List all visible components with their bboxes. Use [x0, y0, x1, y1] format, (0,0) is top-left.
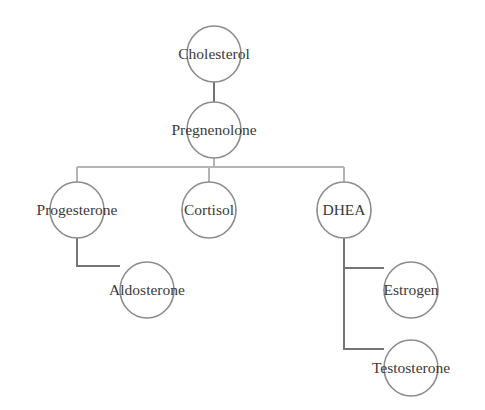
node-label-pregnenolone: Pregnenolone: [171, 121, 256, 138]
node-label-dhea: DHEA: [322, 201, 366, 218]
node-label-estrogen: Estrogen: [383, 281, 438, 298]
node-cortisol[interactable]: Cortisol: [182, 182, 236, 238]
node-aldosterone[interactable]: Aldosterone: [109, 262, 185, 318]
node-cholesterol[interactable]: Cholesterol: [178, 26, 249, 82]
edge-dhea-to-testosterone: [344, 268, 384, 349]
edge-dhea-to-estrogen: [344, 238, 384, 268]
pathway-diagram: Cholesterol Pregnenolone Progesterone Co…: [0, 0, 485, 410]
node-label-cortisol: Cortisol: [184, 201, 234, 218]
node-label-testosterone: Testosterone: [372, 359, 450, 376]
edge-pregnenolone-to-branch-bus: [77, 158, 344, 167]
pathway-canvas: Cholesterol Pregnenolone Progesterone Co…: [0, 0, 485, 410]
node-progesterone[interactable]: Progesterone: [37, 182, 118, 238]
node-label-cholesterol: Cholesterol: [178, 45, 249, 62]
node-label-aldosterone: Aldosterone: [109, 281, 185, 298]
node-dhea[interactable]: DHEA: [317, 182, 371, 238]
node-label-progesterone: Progesterone: [37, 201, 118, 218]
node-estrogen[interactable]: Estrogen: [383, 262, 438, 318]
node-pregnenolone[interactable]: Pregnenolone: [171, 102, 256, 158]
edge-progesterone-to-aldosterone: [77, 238, 120, 266]
